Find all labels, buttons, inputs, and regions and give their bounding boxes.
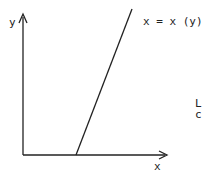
cutoff-text-2: c — [195, 108, 202, 121]
x-axis-label: x — [154, 160, 161, 173]
curve-line — [76, 9, 132, 155]
curve-label: x = x (y) — [143, 15, 202, 28]
y-axis-label: y — [9, 16, 16, 29]
